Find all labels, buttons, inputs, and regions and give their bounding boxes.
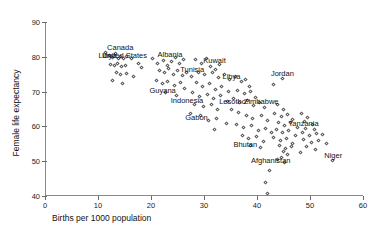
point-label: Bhutan [233, 140, 257, 149]
data-point [195, 81, 198, 84]
data-point [201, 85, 204, 88]
data-point [176, 69, 179, 72]
data-point [202, 105, 205, 108]
data-point [208, 82, 211, 85]
data-point [282, 108, 285, 111]
data-point [259, 146, 262, 149]
data-point [190, 75, 193, 78]
point-label: Guyana [149, 86, 175, 95]
data-point [285, 137, 288, 140]
data-point [315, 132, 318, 135]
data-point [240, 80, 243, 83]
y-tick-label: 70 [32, 87, 40, 96]
data-point [321, 133, 324, 136]
data-point [181, 74, 184, 77]
y-tick-label: 60 [32, 122, 40, 131]
x-tick-label: 60 [359, 201, 367, 210]
data-point [172, 73, 175, 76]
y-tick-mark [42, 92, 47, 93]
data-point [302, 138, 305, 141]
data-point [225, 122, 228, 125]
x-tick-mark [151, 196, 152, 200]
data-point [270, 131, 273, 134]
data-point [264, 181, 267, 184]
data-point [279, 139, 282, 142]
data-point [251, 117, 254, 120]
data-point [121, 82, 124, 85]
x-tick-mark [98, 196, 99, 200]
point-label: Libya [99, 51, 117, 60]
y-tick-label: 40 [32, 192, 40, 201]
data-point [266, 119, 269, 122]
data-point [212, 97, 215, 100]
data-point [280, 115, 283, 118]
data-point [209, 65, 212, 68]
point-label: Jordan [271, 69, 294, 78]
data-point [194, 58, 197, 61]
x-tick-mark [204, 196, 205, 200]
data-point [214, 68, 217, 71]
point-label: Gabon [185, 113, 208, 122]
data-point [167, 67, 170, 70]
data-point [272, 83, 275, 86]
data-point [286, 113, 289, 116]
x-tick-mark [257, 196, 258, 200]
data-point [116, 62, 119, 65]
data-point [294, 134, 297, 137]
data-point [299, 151, 302, 154]
data-point [266, 192, 269, 195]
data-point [119, 73, 122, 76]
data-point [206, 93, 209, 96]
y-axis-label: Female life expectancy [11, 53, 21, 173]
point-label: Tanzania [289, 119, 319, 128]
point-label: Indonesia [171, 96, 204, 105]
data-point [245, 114, 248, 117]
data-point [216, 108, 219, 111]
data-point [166, 80, 169, 83]
data-point [182, 58, 185, 61]
point-label: Lesotho [219, 97, 246, 106]
data-point [282, 150, 285, 153]
x-tick-mark [363, 196, 364, 200]
data-point [179, 81, 182, 84]
data-point [213, 128, 216, 131]
data-point [257, 129, 260, 132]
data-point [111, 79, 114, 82]
data-point [317, 139, 320, 142]
data-point [158, 69, 161, 72]
data-point [262, 140, 265, 143]
point-label: Afghanistan [251, 156, 291, 165]
data-point [278, 144, 281, 147]
data-point [248, 85, 251, 88]
data-point [156, 62, 159, 65]
x-tick-label: 40 [253, 201, 261, 210]
data-point [300, 112, 303, 115]
data-point [217, 76, 220, 79]
y-tick-label: 90 [32, 18, 40, 27]
y-tick-mark [42, 126, 47, 127]
data-point [287, 129, 290, 132]
x-tick-label: 20 [147, 201, 155, 210]
data-point [163, 71, 166, 74]
data-point [137, 62, 140, 65]
data-point [241, 134, 244, 137]
data-point [242, 126, 245, 129]
x-tick-label: 50 [306, 201, 314, 210]
data-point [325, 142, 328, 145]
point-label: Niger [324, 151, 342, 160]
data-point [272, 136, 275, 139]
point-label: Kuwait [203, 56, 226, 65]
data-point [244, 78, 247, 81]
data-point [155, 79, 158, 82]
data-point [310, 141, 313, 144]
data-point [162, 59, 165, 62]
data-point [290, 145, 293, 148]
x-axis-label: Births per 1000 population [52, 213, 151, 223]
y-tick-mark [42, 57, 47, 58]
data-point [230, 108, 233, 111]
point-label: Albania [158, 50, 183, 59]
data-point [120, 65, 123, 68]
data-point [161, 82, 164, 85]
x-axis-ticks: 0102030405060 [45, 196, 363, 214]
scatter-chart: Female life expectancy Births per 1000 p… [0, 0, 374, 238]
